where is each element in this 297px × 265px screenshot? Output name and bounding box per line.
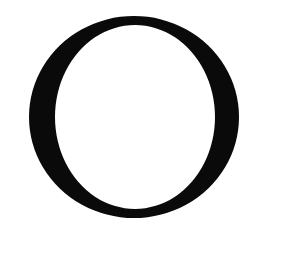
letter-o-glyph: O — [0, 0, 297, 265]
letter-o-icon — [0, 0, 297, 265]
